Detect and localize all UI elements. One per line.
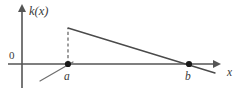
function-graph-figure: k(x) 0 x a b (0, 0, 245, 102)
x-axis-arrowhead-icon (213, 60, 221, 68)
main-descending-line-segment (68, 28, 215, 73)
x-axis-label: x (227, 67, 232, 79)
origin-label: 0 (9, 50, 15, 61)
point-a-label: a (64, 71, 70, 83)
y-axis (18, 4, 26, 88)
y-axis-arrowhead-icon (18, 4, 26, 12)
point-b-label: b (185, 71, 191, 83)
y-axis-function-label: k(x) (29, 5, 48, 18)
point-marker-b (186, 61, 192, 67)
point-marker-a (65, 61, 71, 67)
